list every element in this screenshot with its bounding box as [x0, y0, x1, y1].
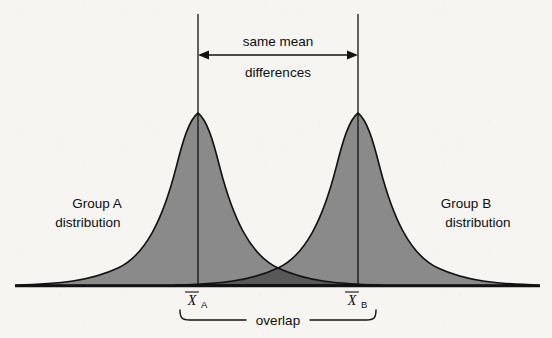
mean-b-symbol: X — [347, 293, 357, 308]
mean-a-subscript: A — [201, 299, 208, 310]
distribution-overlap-figure: same mean differences Group A distributi… — [0, 0, 552, 338]
overlap-label: overlap — [256, 313, 300, 328]
group-a-label-line2: distribution — [55, 215, 120, 230]
group-a-label-line1: Group A — [72, 196, 122, 211]
arrow-annotation-line2: differences — [245, 65, 311, 80]
mean-a-symbol: X — [187, 293, 197, 308]
arrow-annotation-line1: same mean — [243, 34, 314, 49]
figure-canvas: same mean differences Group A distributi… — [0, 0, 552, 338]
group-b-label-line1: Group B — [441, 196, 491, 211]
mean-b-subscript: B — [361, 299, 367, 310]
group-b-label-line2: distribution — [445, 215, 510, 230]
figure-background — [0, 0, 552, 338]
